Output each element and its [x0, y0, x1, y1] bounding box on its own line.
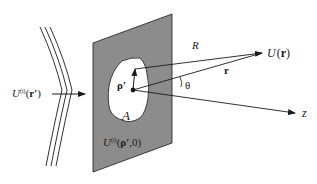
- incident-field-symbol: U: [12, 87, 20, 99]
- z-axis-label: z: [302, 107, 307, 119]
- wavefronts: [40, 27, 72, 166]
- theta-label: θ: [185, 80, 190, 91]
- diagram-graphics: [0, 0, 317, 184]
- observed-field-symbol: U: [267, 46, 276, 60]
- r-label: r: [224, 65, 229, 76]
- R-label: R: [192, 40, 199, 51]
- aperture-field-label: U(i)(ρ′,0): [103, 137, 141, 148]
- theta-arc: [180, 77, 182, 87]
- aperture-field-argument: ρ′: [120, 136, 129, 148]
- paren-close: ): [286, 46, 290, 60]
- aperture-area-label: A: [122, 109, 130, 122]
- aperture-field-symbol: U: [103, 136, 111, 148]
- diffraction-diagram: U(i)(r′) U(i)(ρ′,0) A ρ′ R r U (r) θ z: [0, 0, 317, 184]
- rho-prime-label: ρ′: [117, 80, 126, 91]
- incident-field-label: U(i)(r′): [12, 88, 41, 99]
- observed-field-label: U (r): [267, 47, 290, 59]
- aperture-field-tail: ,0): [129, 136, 141, 148]
- paren-close: ): [37, 87, 41, 99]
